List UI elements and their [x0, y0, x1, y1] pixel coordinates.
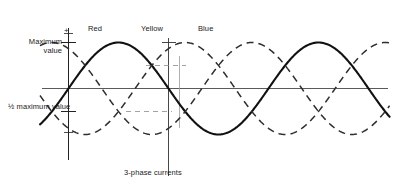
axis-label-maximum-value-line1: Maximum: [29, 37, 62, 46]
curve-label-yellow: Yellow: [141, 24, 163, 33]
axis-label-half-maximum-line2: value: [52, 102, 70, 111]
waveform-plot: [0, 0, 394, 189]
three-phase-current-figure: Maximum value ½ maximum value + Red Yell…: [0, 0, 394, 189]
axis-sign-positive: +: [64, 26, 69, 35]
curve-label-red: Red: [88, 24, 102, 33]
axis-label-half-maximum-line1: ½ maximum: [8, 102, 50, 111]
figure-caption: 3-phase currents: [124, 168, 182, 177]
axis-label-maximum-value: Maximum value: [8, 37, 62, 55]
curve-label-blue: Blue: [198, 24, 213, 33]
axis-label-half-maximum: ½ maximum value: [8, 102, 62, 111]
axis-label-maximum-value-line2: value: [8, 46, 62, 55]
